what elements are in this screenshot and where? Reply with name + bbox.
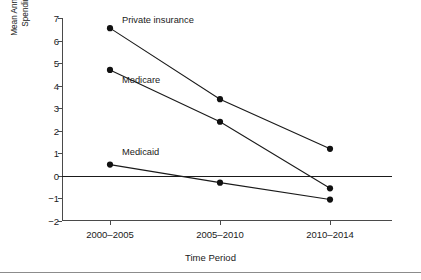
x-tick-mark [110, 221, 111, 225]
y-tick-label: 1 [54, 148, 59, 159]
series-line [110, 28, 330, 149]
series-label-medicaid: Medicaid [122, 147, 159, 157]
y-tick-label: −1 [48, 193, 59, 204]
y-tick-label: 2 [54, 125, 59, 136]
data-point-marker [217, 96, 223, 102]
data-point-marker [327, 146, 333, 152]
x-tick-label: 2000–2005 [86, 229, 134, 240]
x-tick-mark [330, 221, 331, 225]
series-label-private-insurance: Private insurance [122, 15, 194, 25]
x-tick-mark [220, 221, 221, 225]
data-point-marker [327, 196, 333, 202]
chart-figure: Mean Annual Percentage Change in Spendin… [0, 0, 421, 280]
data-point-marker [107, 162, 113, 168]
x-tick-label: 2010–2014 [306, 229, 354, 240]
y-tick-label: 4 [54, 80, 59, 91]
plot-area: −2−101234567 2000–20052005–20102010–2014… [62, 18, 392, 221]
y-tick-label: 6 [54, 35, 59, 46]
y-tick-label: 3 [54, 103, 59, 114]
series-label-medicare: Medicare [122, 75, 160, 85]
y-tick-label: −2 [48, 216, 59, 227]
y-axis-title-line-1: Mean Annual Percentage Change in [10, 0, 21, 58]
x-tick-label: 2005–2010 [196, 229, 244, 240]
x-axis-title: Time Period [0, 252, 421, 263]
data-point-marker [217, 119, 223, 125]
figure-bottom-rule [0, 272, 421, 273]
y-tick-label: 5 [54, 58, 59, 69]
y-tick-label: 7 [54, 13, 59, 24]
data-point-marker [217, 180, 223, 186]
data-point-marker [107, 67, 113, 73]
y-axis-title-line-2: Spending, Adjusted for Inflation [21, 0, 32, 58]
data-point-marker [327, 185, 333, 191]
series-layer [62, 18, 392, 221]
y-axis-title: Mean Annual Percentage Change in Spendin… [10, 0, 40, 58]
data-point-marker [107, 25, 113, 31]
y-tick-label: 0 [54, 170, 59, 181]
